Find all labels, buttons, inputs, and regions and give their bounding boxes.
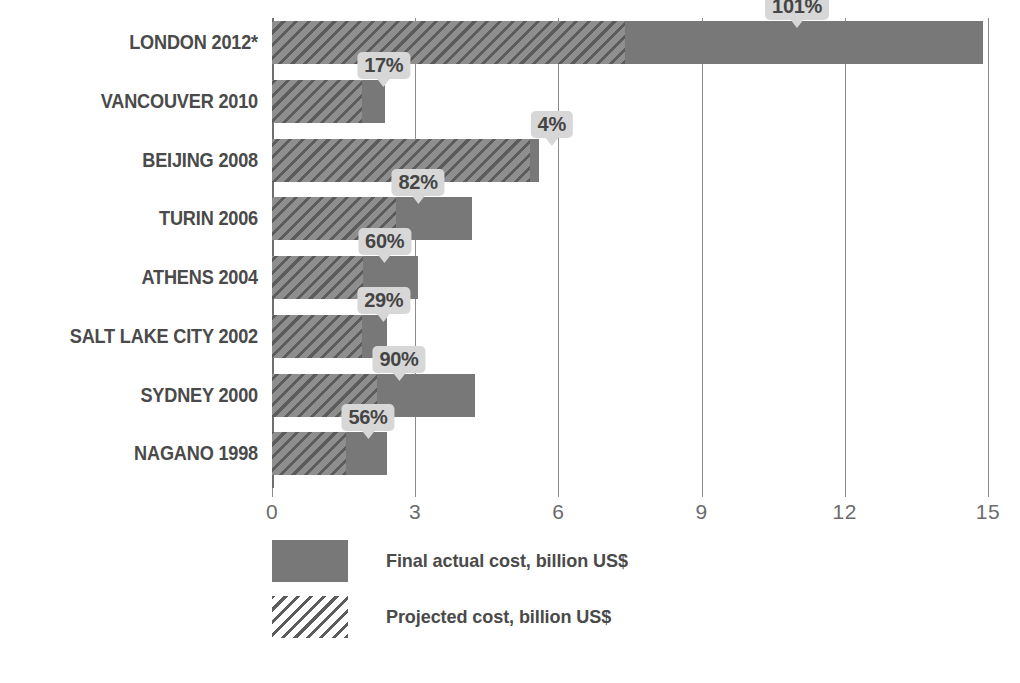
tick-mark (272, 488, 273, 497)
legend-label: Final actual cost, billion US$ (386, 550, 628, 572)
callout-pointer (378, 254, 392, 263)
tick-mark (415, 488, 416, 497)
callout-pointer (545, 137, 559, 146)
category-label: ATHENS 2004 (26, 256, 259, 299)
legend-item: Final actual cost, billion US$ (272, 540, 641, 582)
bar-projected-cost (272, 256, 363, 299)
bar-row (272, 432, 988, 475)
callout-pointer (411, 195, 425, 204)
cost-overrun-value: 4% (531, 111, 573, 138)
callout-pointer (790, 19, 804, 28)
cost-overrun-value: 17% (357, 52, 410, 79)
bar-row (272, 139, 988, 182)
callout-pointer (361, 430, 375, 439)
cost-overrun-value: 90% (372, 346, 425, 373)
cost-overrun-callout: 60% (358, 228, 411, 255)
tick-label: 12 (833, 500, 857, 524)
callout-pointer (377, 78, 391, 87)
legend-swatch-final-actual-cost (272, 540, 348, 582)
cost-overrun-callout: 82% (392, 169, 445, 196)
category-label: BEIJING 2008 (26, 139, 259, 182)
cost-overrun-callout: 90% (372, 346, 425, 373)
cost-overrun-value: 60% (358, 228, 411, 255)
bar-projected-cost (272, 432, 346, 475)
cost-overrun-callout: 4% (531, 111, 573, 138)
bar-projected-cost (272, 21, 625, 64)
callout-pointer (377, 313, 391, 322)
chart-legend: Final actual cost, billion US$Projected … (272, 540, 641, 652)
cost-overrun-value: 29% (357, 287, 410, 314)
tick-label: 0 (266, 500, 278, 524)
legend-label: Projected cost, billion US$ (386, 606, 611, 628)
tick-mark (702, 488, 703, 497)
bar-projected-cost (272, 315, 362, 358)
legend-item: Projected cost, billion US$ (272, 596, 641, 638)
category-label: SALT LAKE CITY 2002 (26, 315, 259, 358)
category-axis: LONDON 2012*VANCOUVER 2010BEIJING 2008TU… (0, 18, 258, 488)
legend-swatch-projected-cost (272, 596, 348, 638)
category-label: NAGANO 1998 (26, 432, 259, 475)
tick-mark (558, 488, 559, 497)
olympics-cost-overrun-chart: LONDON 2012*VANCOUVER 2010BEIJING 2008TU… (0, 0, 1020, 683)
callout-pointer (392, 372, 406, 381)
cost-overrun-callout: 101% (765, 0, 829, 20)
category-label: SYDNEY 2000 (26, 374, 259, 417)
cost-overrun-callout: 17% (357, 52, 410, 79)
cost-overrun-value: 101% (765, 0, 829, 20)
tick-label: 9 (696, 500, 708, 524)
tick-label: 15 (976, 500, 1000, 524)
category-label: TURIN 2006 (26, 197, 259, 240)
bar-projected-cost (272, 80, 362, 123)
tick-label: 3 (409, 500, 421, 524)
cost-overrun-callout: 29% (357, 287, 410, 314)
cost-overrun-callout: 56% (341, 404, 394, 431)
tick-mark (845, 488, 846, 497)
plot-area: 03691215101%17%4%82%60%29%90%56% (272, 18, 988, 488)
category-label: LONDON 2012* (26, 21, 259, 64)
tick-label: 6 (552, 500, 564, 524)
tick-mark (988, 488, 989, 497)
cost-overrun-value: 56% (341, 404, 394, 431)
category-label: VANCOUVER 2010 (26, 80, 259, 123)
cost-overrun-value: 82% (392, 169, 445, 196)
gridline (988, 18, 989, 488)
